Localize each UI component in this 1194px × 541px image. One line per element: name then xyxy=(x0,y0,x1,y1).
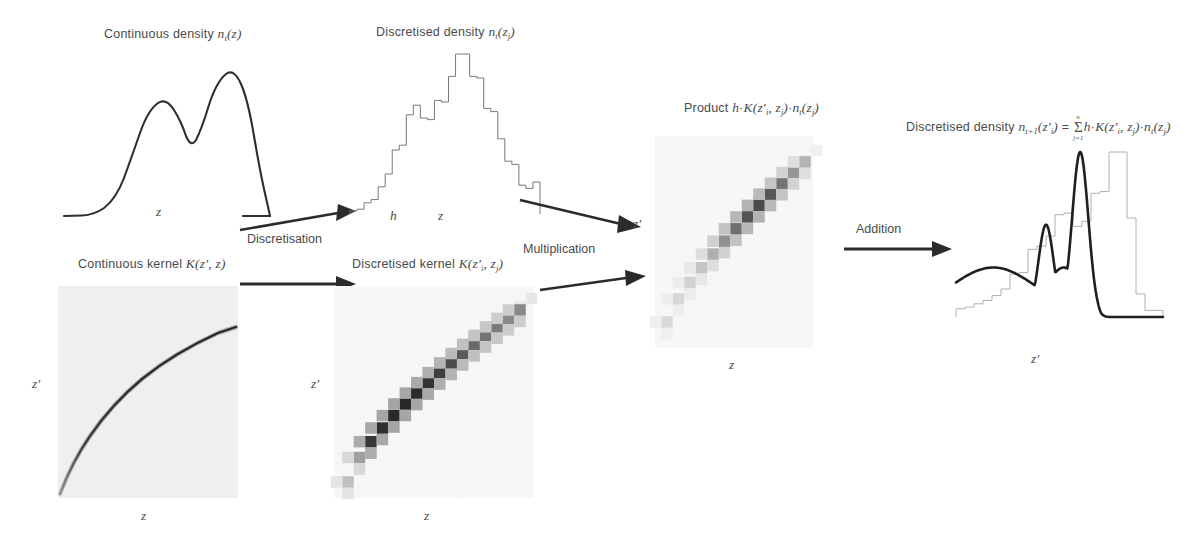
discretised-density-caption: Discretised density nt(zj) xyxy=(376,24,515,41)
result-smooth-curve xyxy=(956,152,1163,317)
matrix-cell xyxy=(526,293,538,305)
continuous-density-caption: Continuous density nt(z) xyxy=(104,26,242,43)
matrix-cell xyxy=(503,304,515,316)
matrix-cell xyxy=(354,463,366,475)
matrix-cell xyxy=(354,436,366,448)
matrix-cell xyxy=(650,316,662,328)
matrix-cell xyxy=(719,223,731,235)
arrow-multiplication-lower xyxy=(538,268,648,296)
product-matrix xyxy=(655,136,813,348)
matrix-cell xyxy=(331,476,343,488)
continuous-density-xlabel: z xyxy=(156,204,161,220)
matrix-cell xyxy=(753,188,765,200)
matrix-cell xyxy=(400,387,412,399)
product-xlabel: z xyxy=(729,357,734,373)
matrix-cell xyxy=(742,211,754,223)
matrix-cell xyxy=(673,293,685,305)
matrix-cell xyxy=(673,277,685,289)
matrix-cell xyxy=(661,316,673,328)
matrix-cell xyxy=(445,348,457,360)
matrix-cell xyxy=(377,410,389,422)
matrix-cell xyxy=(434,357,446,369)
matrix-cell xyxy=(696,273,708,285)
histogram-outline xyxy=(350,54,540,214)
discretised-density-histogram xyxy=(350,48,540,220)
matrix-cell xyxy=(765,177,777,189)
summation-symbol: nΣj=1 xyxy=(1074,120,1083,135)
result-plot xyxy=(952,140,1167,355)
matrix-cell xyxy=(377,422,389,434)
result-xlabel: z' xyxy=(1031,351,1039,367)
matrix-cell xyxy=(422,367,434,379)
matrix-cell xyxy=(707,235,719,247)
matrix-cell xyxy=(811,145,823,157)
matrix-cell xyxy=(423,377,435,389)
matrix-cell xyxy=(388,410,400,422)
matrix-cell xyxy=(400,398,412,410)
arrow-multiplication-upper xyxy=(518,196,643,238)
matrix-cell xyxy=(788,156,800,168)
matrix-cell xyxy=(684,262,696,274)
matrix-cell xyxy=(730,235,742,247)
matrix-cell xyxy=(707,248,719,260)
matrix-cell xyxy=(730,211,742,223)
matrix-cell xyxy=(707,260,719,272)
product-ylabel: z' xyxy=(633,216,641,232)
matrix-cell xyxy=(377,434,389,446)
matrix-cell xyxy=(468,330,480,342)
discretised-kernel-matrix xyxy=(334,286,534,498)
matrix-cell xyxy=(388,398,400,410)
matrix-cell xyxy=(719,247,731,258)
product-image xyxy=(655,136,813,348)
discretised-kernel-ylabel: z' xyxy=(311,376,319,392)
matrix-cell xyxy=(719,235,731,247)
matrix-cell xyxy=(673,305,685,317)
matrix-cell xyxy=(457,359,469,371)
matrix-cell xyxy=(354,452,366,464)
matrix-cell xyxy=(742,200,754,212)
matrix-cell xyxy=(684,288,696,300)
matrix-cell xyxy=(684,277,696,289)
figure-canvas: Continuous density nt(z) z Discretisatio… xyxy=(0,0,1194,541)
matrix-cell xyxy=(730,223,742,235)
matrix-cell xyxy=(365,422,377,434)
matrix-cell xyxy=(491,333,503,345)
matrix-cell xyxy=(742,223,754,235)
matrix-cell xyxy=(514,304,526,316)
matrix-cell xyxy=(788,167,800,179)
arrow-discretisation-label: Discretisation xyxy=(247,232,322,246)
matrix-cell xyxy=(799,168,811,180)
matrix-cell xyxy=(776,167,788,179)
matrix-cell xyxy=(753,200,765,212)
matrix-cell xyxy=(365,436,377,448)
matrix-cell xyxy=(753,211,765,223)
matrix-cell xyxy=(457,339,469,351)
discretised-density-plot xyxy=(350,48,540,220)
matrix-cell xyxy=(342,452,354,464)
matrix-cell xyxy=(661,293,673,305)
matrix-cell xyxy=(788,178,800,190)
matrix-cell xyxy=(411,377,423,389)
matrix-cell xyxy=(480,321,492,333)
matrix-cell xyxy=(423,388,435,400)
continuous-density-curve xyxy=(64,72,270,216)
matrix-cell xyxy=(765,200,777,212)
product-caption: Product h·K(z'i, zj)·nt(zj) xyxy=(684,100,819,117)
continuous-kernel-caption: Continuous kernel K(z', z) xyxy=(78,256,226,272)
arrow-discretisation xyxy=(238,196,358,236)
matrix-cell xyxy=(468,350,480,362)
matrix-cell xyxy=(503,324,515,336)
matrix-cell xyxy=(765,188,777,200)
matrix-cell xyxy=(491,313,503,325)
discretised-kernel-xlabel: z xyxy=(424,508,429,524)
matrix-cell xyxy=(411,387,423,399)
matrix-cell xyxy=(434,378,446,390)
matrix-cell xyxy=(661,328,673,340)
matrix-cell xyxy=(480,341,492,353)
matrix-cell xyxy=(342,476,354,488)
matrix-cell xyxy=(411,399,423,411)
result-histogram-outline xyxy=(956,152,1163,317)
discretised-kernel-caption: Discretised kernel K(z'i, zj) xyxy=(352,256,503,273)
continuous-kernel-image xyxy=(58,286,238,498)
matrix-cell xyxy=(400,410,412,422)
